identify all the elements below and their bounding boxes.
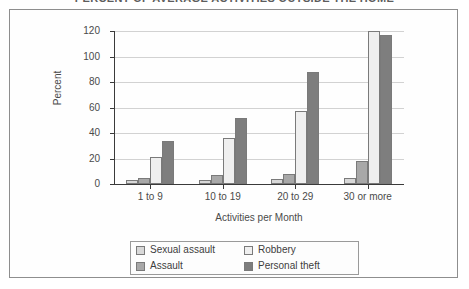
x-tick-mark (150, 185, 151, 189)
bar (295, 111, 307, 184)
legend-swatch-icon (244, 262, 253, 271)
bar (368, 31, 380, 184)
bar (307, 72, 319, 184)
x-tick-mark (368, 185, 369, 189)
legend-item: Personal theft (244, 258, 354, 274)
chart-legend: Sexual assaultRobberyAssaultPersonal the… (130, 241, 359, 275)
legend-item: Robbery (244, 242, 354, 258)
x-axis-label: Activities per Month (114, 212, 404, 223)
bar (138, 178, 150, 184)
chart-frame: Percent 020406080100120 1 to 910 to 1920… (9, 9, 458, 278)
x-tick-mark (223, 185, 224, 189)
bar (271, 179, 283, 184)
legend-label: Robbery (258, 245, 296, 255)
legend-label: Personal theft (258, 261, 320, 271)
legend-label: Sexual assault (150, 245, 215, 255)
legend-swatch-icon (136, 262, 145, 271)
plot-area: 020406080100120 1 to 910 to 1920 to 2930… (114, 31, 404, 185)
y-tick-label: 60 (60, 103, 100, 113)
x-axis-line (114, 184, 404, 185)
bar-group (187, 31, 260, 184)
x-tick-label: 30 or more (323, 191, 413, 202)
bar (126, 180, 138, 184)
bar (223, 138, 235, 184)
y-tick-label: 100 (60, 52, 100, 62)
bar (380, 35, 392, 184)
bar (211, 175, 223, 184)
bar (199, 180, 211, 184)
y-tick-label: 0 (60, 179, 100, 189)
bar (344, 178, 356, 184)
y-axis-label: Percent (52, 71, 63, 105)
bar (356, 161, 368, 184)
legend-item: Assault (136, 258, 244, 274)
bar-group (332, 31, 405, 184)
y-tick-label: 40 (60, 128, 100, 138)
bar-group (114, 31, 187, 184)
y-tick-label: 80 (60, 77, 100, 87)
bar (235, 118, 247, 184)
x-tick-mark (295, 185, 296, 189)
legend-swatch-icon (136, 246, 145, 255)
y-tick-mark (110, 184, 114, 185)
chart-title: PERCENT OF AVERAGE ACTIVITIES OUTSIDE TH… (0, 0, 469, 2)
legend-swatch-icon (244, 246, 253, 255)
bar (283, 174, 295, 184)
bar-group (259, 31, 332, 184)
legend-item: Sexual assault (136, 242, 244, 258)
bar (162, 141, 174, 184)
y-tick-label: 20 (60, 154, 100, 164)
bar (150, 157, 162, 184)
y-tick-label: 120 (60, 26, 100, 36)
legend-label: Assault (150, 261, 183, 271)
